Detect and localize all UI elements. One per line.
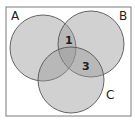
venn-diagram: A B C 1 3 [0, 0, 135, 120]
set-c-circle [38, 47, 104, 113]
region-ab-value: 1 [65, 34, 73, 47]
set-c-label: C [106, 88, 114, 102]
set-a-label: A [11, 9, 20, 23]
set-b-label: B [119, 9, 127, 23]
region-bc-value: 3 [82, 60, 90, 73]
